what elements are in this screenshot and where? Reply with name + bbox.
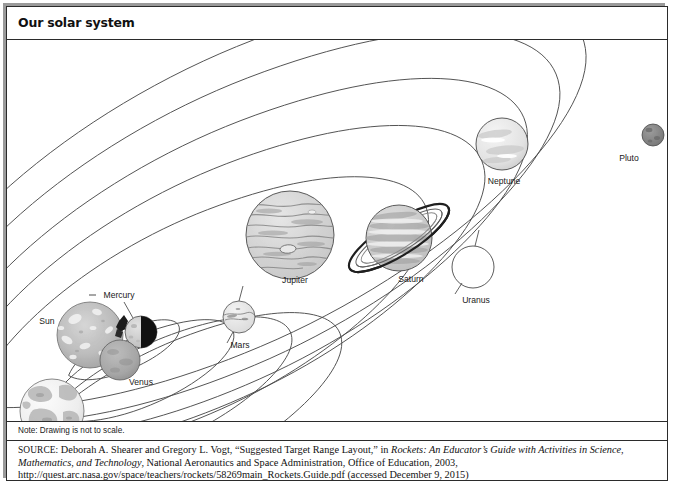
leader-mars (239, 286, 243, 301)
solar-system-diagram: Sun Mercury (7, 40, 667, 421)
scale-note: Note: Drawing is not to scale. (18, 426, 125, 435)
leader-uranus-2 (455, 283, 462, 294)
leader-mercury (124, 302, 133, 318)
figure-title-bar: Our solar system (7, 7, 667, 40)
label-saturn: Saturn (398, 274, 424, 284)
body-mars: Mars (223, 286, 255, 350)
source-lead-label: SOURCE: (18, 445, 58, 455)
figure-frame: Our solar system (6, 6, 668, 481)
figure-page: Our solar system (0, 0, 676, 488)
label-mars: Mars (230, 340, 249, 350)
label-neptune: Neptune (488, 176, 521, 186)
body-saturn: Saturn (341, 193, 457, 284)
label-venus: Venus (129, 377, 153, 387)
body-jupiter: Jupiter (245, 191, 338, 285)
page-title: Our solar system (18, 15, 135, 30)
note-divider (7, 421, 667, 422)
body-uranus: Uranus (452, 230, 494, 305)
label-pluto: Pluto (619, 153, 639, 163)
source-text-part1: Deborah A. Shearer and Gregory L. Vogt, … (58, 444, 391, 455)
label-uranus: Uranus (462, 295, 490, 305)
source-citation: SOURCE: Deborah A. Shearer and Gregory L… (18, 444, 659, 482)
leader-uranus (475, 230, 479, 246)
source-divider (7, 440, 667, 441)
label-mercury: Mercury (103, 290, 135, 300)
body-earth: Earth (20, 379, 84, 421)
body-neptune: Neptune (476, 118, 528, 186)
body-pluto: Pluto (619, 124, 664, 163)
label-sun: Sun (39, 316, 55, 326)
label-jupiter: Jupiter (282, 275, 308, 285)
